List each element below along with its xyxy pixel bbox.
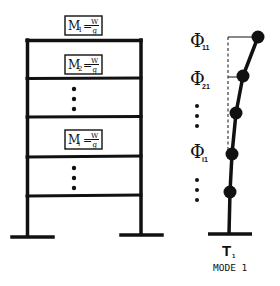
period-subscript: 1 <box>232 253 236 259</box>
phi-subscript: 21 <box>202 83 210 90</box>
deflected-shape-line <box>229 37 258 234</box>
mass-node-5 <box>224 186 237 199</box>
phi-label-11: Φ 11 <box>190 30 210 51</box>
phi-label-i1: Φ i1 <box>190 141 208 163</box>
period-label: T 1 <box>222 242 236 259</box>
mode-shape <box>208 31 265 235</box>
mass-subscript: 1 <box>78 26 82 34</box>
mass-node-4 <box>226 148 239 161</box>
gravity-symbol: g <box>93 66 98 74</box>
phi-ellipsis-upper <box>195 104 199 128</box>
mode-caption: MODE 1 <box>213 262 248 273</box>
mass-label-1: M 1 = W g <box>65 16 102 35</box>
phi-subscript: i1 <box>202 156 208 163</box>
floor-beam-2 <box>27 78 141 79</box>
floor-beam-3 <box>27 117 141 118</box>
gravity-symbol: g <box>93 141 98 149</box>
gravity-symbol: g <box>93 27 98 35</box>
mass-label-i: M i = W g <box>65 130 102 149</box>
mass-label-2: M 2 = W g <box>65 55 102 74</box>
mass-node-3 <box>230 107 243 120</box>
phi-subscript: 11 <box>202 44 210 51</box>
weight-symbol: W <box>91 18 99 26</box>
mass-node-2 <box>237 70 250 83</box>
floor-beam-4 <box>27 156 141 157</box>
mass-node-1 <box>252 31 265 44</box>
weight-symbol: W <box>91 57 99 65</box>
frame-mode-diagram: M 1 = W g M 2 = W g M i = W g <box>0 0 280 286</box>
floor-ellipsis-upper <box>72 87 76 111</box>
floor-beam-5 <box>27 195 141 196</box>
phi-label-21: Φ 21 <box>190 68 210 90</box>
mass-subscript: 2 <box>78 65 82 73</box>
phi-ellipsis-lower <box>195 178 199 202</box>
weight-symbol: W <box>91 132 99 140</box>
floor-ellipsis-lower <box>72 166 76 190</box>
period-symbol: T <box>222 242 231 259</box>
